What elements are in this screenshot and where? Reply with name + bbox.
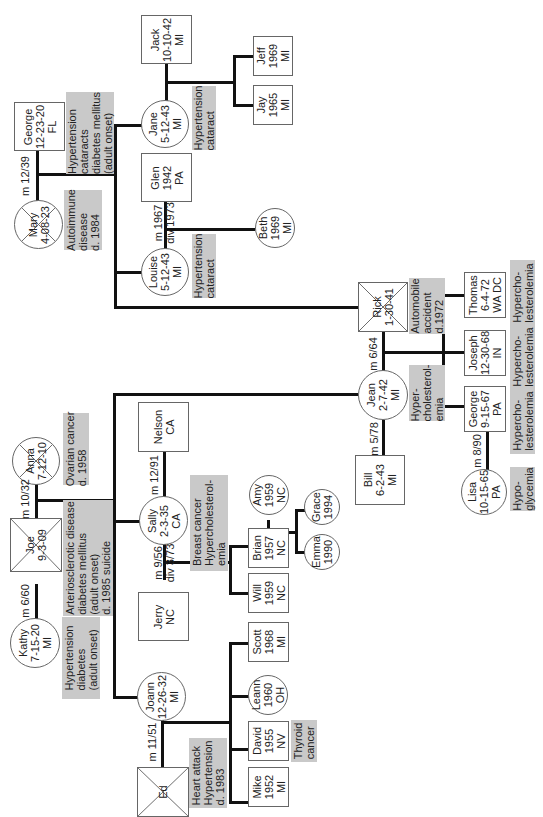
person-thomas[interactable]: Thomas 6-4-72 WA DC [464, 272, 506, 318]
note-text: Hyper- cholesterol- emia [409, 365, 445, 422]
person-label: Sally 2-3-35 CA [146, 505, 182, 537]
note-jane: Hypertension cataract [192, 86, 216, 150]
union-line-sally-nelson [163, 450, 166, 500]
person-sally[interactable]: Sally 2-3-35 CA [139, 496, 188, 545]
descent-line-louise-glen [165, 228, 255, 231]
union-line-joann-ed [161, 718, 164, 768]
person-label: Bill 6-2-43 MI [362, 464, 398, 496]
note-text: Ovarian cancer d. 1958 [64, 412, 88, 487]
child-line-joseph [442, 351, 464, 354]
note-jean: Hyper- cholesterol- emia [409, 365, 445, 421]
union-label-sally-jerry: m 9/56 div 3/73 [150, 543, 178, 583]
child-line-george-jr [442, 405, 464, 408]
person-label: Brian 1957 NC [251, 535, 287, 561]
child-line-sally [113, 520, 141, 523]
note-louise: Hypertension cataract [192, 234, 216, 298]
union-line-jean-bill [382, 420, 385, 460]
person-label: Emma 1990 [310, 536, 334, 568]
union-label-jean-bill: m 5/78 [366, 420, 382, 458]
note-text: Thyroid cancer [292, 723, 316, 760]
note-text: Hypertension cataracts diabetes mellitus… [66, 92, 114, 174]
person-label: Amy 1959 NC [251, 483, 287, 507]
person-jerry[interactable]: Jerry NC [138, 592, 189, 641]
person-label: David 1955 NV [251, 727, 287, 755]
person-scott[interactable]: Scott 1968 MI [248, 622, 289, 662]
person-lisa[interactable]: Lisa 10-15-65 PA [461, 469, 507, 515]
note-joseph: Hypercho- lesterolemia [510, 324, 535, 390]
person-jack[interactable]: Jack 10-10-42 MI [141, 15, 192, 64]
person-mike[interactable]: Mike 1952 MI [248, 767, 289, 807]
person-label: George 9-15-67 PA [467, 390, 503, 428]
person-label: Joseph 12-30-68 IN [467, 331, 503, 375]
person-label: Jane 5-12-43 MI [147, 105, 183, 143]
child-line-leann [229, 695, 249, 698]
child-line-rick [114, 306, 359, 309]
note-text: Hypertension cataract [192, 234, 216, 299]
note-lisa: Hypo- glycemia [510, 467, 535, 511]
child-line-will [229, 592, 249, 595]
person-label: Jay 1965 MI [255, 93, 291, 117]
child-line-scott [229, 642, 249, 645]
person-louise[interactable]: Louise 5-12-43 MI [141, 248, 189, 296]
person-label: Nelson CA [152, 410, 176, 444]
union-label-sally-nelson: m 12/91 [146, 454, 162, 496]
child-line-david [229, 748, 249, 751]
person-joe[interactable]: Joe 9-3-09 [10, 518, 62, 572]
person-ed[interactable]: Ed [137, 767, 189, 817]
note-mary: Autoimmune disease d. 1984 [64, 190, 102, 250]
person-david[interactable]: David 1955 NV [248, 721, 289, 761]
person-jean[interactable]: Jean 2-7-42 MI [358, 370, 408, 420]
union-label-george-lisa: m 8/90 [469, 432, 485, 470]
person-bill[interactable]: Bill 6-2-43 MI [355, 455, 405, 505]
note-text: Hypercho- lesterolemia [511, 263, 535, 322]
person-label: Jean 2-7-42 MI [365, 379, 401, 411]
person-label: Anna 7-12-10 [24, 442, 48, 480]
child-line-jay [233, 104, 253, 107]
note-ed: Heart attack Hypertension d. 1983 [189, 738, 227, 808]
note-david: Thyroid cancer [291, 720, 317, 762]
person-jay[interactable]: Jay 1965 MI [253, 85, 293, 125]
person-grace[interactable]: Grace 1994 [304, 489, 340, 525]
note-text: Automobile accident d.1972 [409, 278, 445, 333]
person-leann[interactable]: Leann 1960 OH [248, 675, 288, 715]
descent-line-joann-ed [162, 721, 230, 724]
person-joseph[interactable]: Joseph 12-30-68 IN [464, 330, 506, 376]
person-label: Mary 4-08-23 [27, 206, 51, 244]
child-line-thomas [442, 294, 464, 297]
sibship-line-sally-jerry [229, 545, 232, 593]
person-emma[interactable]: Emma 1990 [304, 534, 340, 570]
note-text: Hypercho- lesterolemia [511, 391, 535, 450]
union-label-joe-anna: m 10/32 [17, 478, 33, 520]
person-brian[interactable]: Brian 1957 NC [248, 528, 289, 568]
child-line-jeff [233, 55, 253, 58]
note-joe: Arteriosclerotic disease diabetes mellit… [63, 500, 113, 616]
person-nelson[interactable]: Nelson CA [138, 402, 189, 452]
union-line-mary-george [36, 151, 39, 201]
union-label-jean-rick: m 6/64 [365, 334, 381, 374]
note-text: Hypercho- lesterolemia [511, 327, 535, 386]
union-label-joann-ed: m 11/51 [144, 720, 160, 764]
person-glen[interactable]: Glen 1942 PA [141, 153, 192, 202]
person-label: Lisa 10-15-65 PA [466, 470, 502, 514]
note-text: Hypo- glycemia [511, 467, 535, 510]
person-joann[interactable]: Joann 12-26-32 MI [137, 672, 186, 721]
person-mary[interactable]: Mary 4-08-23 [14, 200, 63, 249]
person-label: Joann 12-26-32 MI [144, 674, 180, 718]
person-kathy[interactable]: Kathy 7-15-20 MI [10, 618, 60, 668]
person-amy[interactable]: Amy 1959 NC [249, 475, 289, 515]
person-george-sr[interactable]: George 12-23-20 FL [14, 102, 65, 151]
note-text: Arteriosclerotic disease diabetes mellit… [64, 501, 112, 615]
person-jane[interactable]: Jane 5-12-43 MI [141, 100, 189, 148]
sibship-line-mary-george [114, 124, 117, 308]
person-jeff[interactable]: Jeff 1969 MI [253, 36, 293, 76]
person-beth[interactable]: Beth 1969 MI [255, 208, 295, 248]
descent-line-jean-rick [383, 351, 443, 354]
union-label-mary-george: m 12/39 [17, 152, 33, 200]
note-text: Breast cancer Hypercholesterol- emia [191, 480, 227, 566]
descent-line-jane-jack [165, 81, 235, 84]
person-will[interactable]: Will 1959 NC [248, 573, 289, 613]
sibship-line-joann-ed [229, 642, 232, 802]
person-rick[interactable]: Rick 1-30-41 [358, 282, 408, 332]
person-label: Scott 1968 MI [251, 629, 287, 654]
person-george-jr[interactable]: George 9-15-67 PA [464, 386, 506, 432]
